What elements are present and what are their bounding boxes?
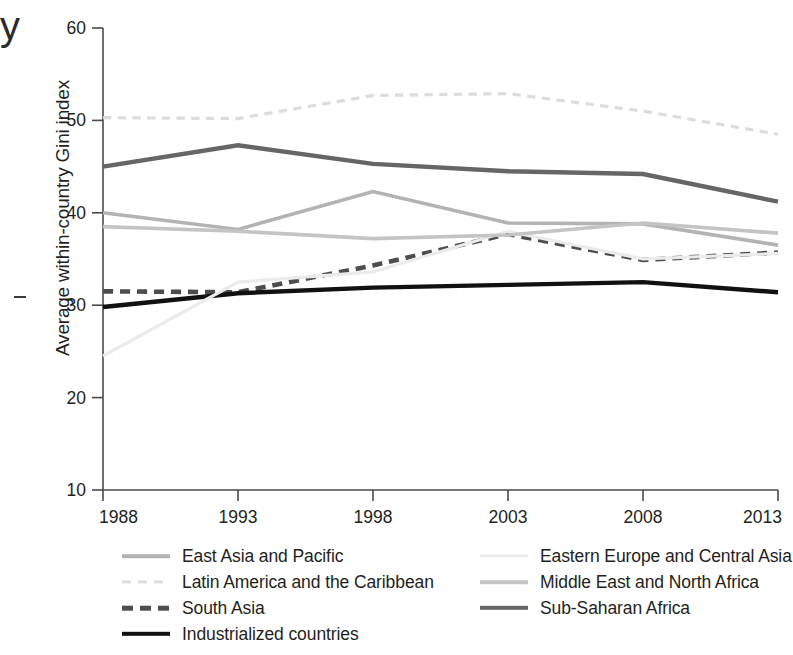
- legend-swatch: [122, 601, 170, 615]
- legend-item: East Asia and Pacific: [122, 543, 434, 569]
- x-tick-label: 2013: [743, 507, 782, 527]
- y-tick-label: 10: [67, 480, 87, 500]
- y-tick-label: 20: [67, 388, 87, 408]
- x-tick-label: 2003: [489, 507, 528, 527]
- legend-item: Latin America and the Caribbean: [122, 569, 434, 595]
- legend-item: South Asia: [122, 595, 434, 621]
- legend-label: East Asia and Pacific: [182, 546, 343, 567]
- legend-swatch: [122, 627, 170, 641]
- data-series-group: [103, 94, 778, 356]
- x-tick-label: 1988: [99, 507, 138, 527]
- line-chart-plot: 102030405060 198819931998200320082013: [0, 0, 793, 545]
- cropped-text-fragment: y: [0, 6, 28, 52]
- legend-label: Eastern Europe and Central Asia: [540, 546, 792, 567]
- legend-label: Latin America and the Caribbean: [182, 572, 434, 593]
- series-line: [103, 231, 778, 356]
- legend-swatch: [122, 575, 170, 589]
- x-tick-label: 1998: [354, 507, 393, 527]
- x-tick-label: 1993: [219, 507, 258, 527]
- series-line: [103, 282, 778, 307]
- legend-label: Sub-Saharan Africa: [540, 598, 690, 619]
- legend-swatch: [480, 549, 528, 563]
- legend-item: Industrialized countries: [122, 621, 434, 647]
- series-line: [103, 145, 778, 201]
- legend-label: Middle East and North Africa: [540, 572, 759, 593]
- legend-swatch: [480, 575, 528, 589]
- y-axis-title-dash: [14, 296, 26, 298]
- chart-legend: East Asia and PacificLatin America and t…: [0, 543, 793, 655]
- x-tick-label: 2008: [624, 507, 663, 527]
- y-axis-title: Average within-country Gini index: [52, 53, 78, 383]
- legend-column-left: East Asia and PacificLatin America and t…: [122, 543, 434, 647]
- legend-item: Eastern Europe and Central Asia: [480, 543, 792, 569]
- legend-swatch: [122, 549, 170, 563]
- y-tick-label: 60: [67, 18, 87, 38]
- series-line: [103, 94, 778, 135]
- legend-swatch: [480, 601, 528, 615]
- legend-label: Industrialized countries: [182, 624, 359, 645]
- legend-label: South Asia: [182, 598, 265, 619]
- legend-column-right: Eastern Europe and Central AsiaMiddle Ea…: [480, 543, 792, 621]
- legend-item: Sub-Saharan Africa: [480, 595, 792, 621]
- chart-figure: y Average within-country Gini index 1020…: [0, 0, 793, 655]
- legend-item: Middle East and North Africa: [480, 569, 792, 595]
- x-axis-ticks: 198819931998200320082013: [99, 490, 782, 527]
